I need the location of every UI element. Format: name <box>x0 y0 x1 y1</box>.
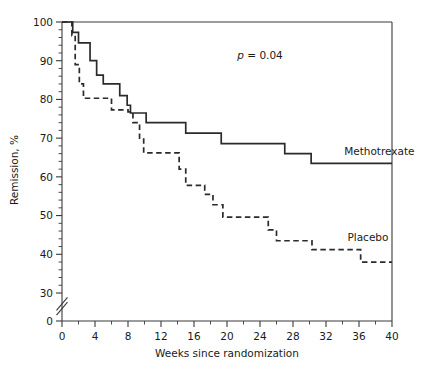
series-line-placebo <box>62 22 392 262</box>
series-label-placebo: Placebo <box>347 231 388 243</box>
x-tick-label: 40 <box>385 330 398 342</box>
y-axis-title: Remission, % <box>8 135 20 205</box>
annotation-p-value: p = 0.04 <box>236 49 283 61</box>
chart-annotations: p = 0.04 <box>236 49 283 61</box>
y-tick-label: 90 <box>40 55 53 67</box>
x-tick-label: 0 <box>59 330 66 342</box>
y-axis-tick-labels: 030405060708090100 <box>33 16 53 327</box>
x-tick-label: 12 <box>154 330 167 342</box>
x-axis-title: Weeks since randomization <box>155 347 299 359</box>
y-tick-label: 80 <box>40 93 53 105</box>
x-axis-ticks <box>62 321 392 327</box>
y-tick-label: 30 <box>40 287 53 299</box>
plot-frame <box>62 22 392 321</box>
series-curves <box>62 22 392 262</box>
y-tick-label: 70 <box>40 132 53 144</box>
y-tick-label: 40 <box>40 248 53 260</box>
x-tick-label: 28 <box>286 330 299 342</box>
series-line-methotrexate <box>62 22 392 163</box>
x-tick-label: 24 <box>253 330 267 342</box>
x-axis-tick-labels: 0481216202428323640 <box>59 330 399 342</box>
y-tick-label: 100 <box>33 16 53 28</box>
x-tick-label: 4 <box>92 330 99 342</box>
series-label-methotrexate: Methotrexate <box>344 145 414 157</box>
y-tick-label: 0 <box>46 315 53 327</box>
kaplan-meier-plot: 0481216202428323640 030405060708090100 M… <box>0 0 421 371</box>
chart-figure: 0481216202428323640 030405060708090100 M… <box>0 0 421 371</box>
series-labels: MethotrexatePlacebo <box>344 145 414 242</box>
y-tick-label: 50 <box>40 209 53 221</box>
y-tick-label: 60 <box>40 171 53 183</box>
x-tick-label: 8 <box>125 330 132 342</box>
p-value-text: = 0.04 <box>244 49 283 61</box>
y-axis-ticks <box>56 22 62 321</box>
x-tick-label: 16 <box>187 330 201 342</box>
x-tick-label: 32 <box>319 330 332 342</box>
x-tick-label: 36 <box>352 330 366 342</box>
x-tick-label: 20 <box>220 330 233 342</box>
